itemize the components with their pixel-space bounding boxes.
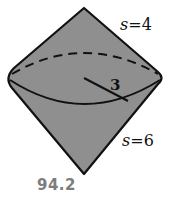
upper-slant-label: s=4 <box>120 15 152 34</box>
lower-slant-label: s=6 <box>122 131 154 150</box>
radius-label: 3 <box>110 76 120 94</box>
double-cone-diagram: 3 s=4 s=6 <box>0 0 174 197</box>
answer-caption: 94.2 <box>37 176 76 194</box>
